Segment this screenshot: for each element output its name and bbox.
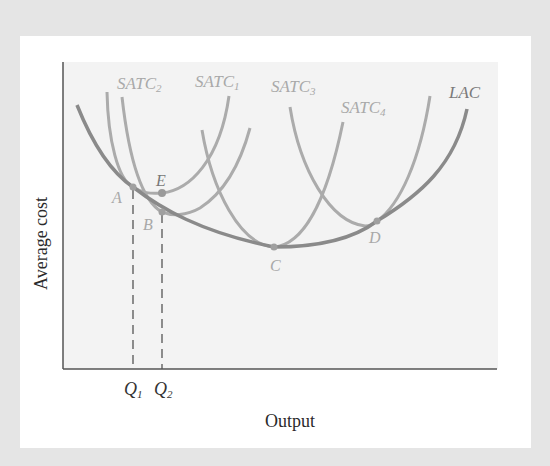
q2-tick-label: Q2 — [154, 380, 173, 400]
satc4-label: SATC4 — [341, 99, 386, 118]
point-c-label: C — [270, 258, 281, 274]
y-axis-title: Average cost — [31, 197, 52, 290]
q1-tick-subscript: 1 — [137, 388, 143, 400]
satc3-label: SATC3 — [271, 78, 316, 97]
point-a-marker — [130, 184, 137, 191]
satc4-label-subscript: 4 — [380, 106, 386, 118]
q1-tick-label: Q1 — [124, 380, 143, 400]
x-axis-title: Output — [265, 411, 315, 432]
satc1-label-subscript: 1 — [234, 80, 240, 92]
cost-curves-chart — [0, 0, 550, 466]
point-e-label: E — [156, 173, 166, 189]
point-d-label: D — [369, 230, 381, 246]
satc3-label-text: SATC — [271, 77, 310, 96]
satc1-curve — [107, 92, 229, 193]
lac-label: LAC — [449, 84, 480, 101]
q1-tick-text: Q — [124, 379, 137, 399]
point-e-marker — [158, 189, 166, 197]
q2-tick-subscript: 2 — [167, 388, 173, 400]
point-d-marker — [374, 218, 381, 225]
satc1-label-text: SATC — [195, 72, 234, 91]
satc2-label-text: SATC — [117, 74, 156, 93]
lac-label-text: LAC — [449, 83, 480, 102]
satc2-label-subscript: 2 — [156, 82, 162, 94]
satc1-label: SATC1 — [195, 73, 240, 92]
point-b-label: B — [143, 217, 153, 233]
point-c-marker — [271, 244, 278, 251]
q2-tick-text: Q — [154, 379, 167, 399]
satc2-curve — [122, 97, 250, 215]
point-b-marker — [159, 209, 166, 216]
satc2-label: SATC2 — [117, 75, 162, 94]
point-a-label: A — [112, 190, 122, 206]
satc4-label-text: SATC — [341, 98, 380, 117]
satc3-label-subscript: 3 — [310, 85, 316, 97]
